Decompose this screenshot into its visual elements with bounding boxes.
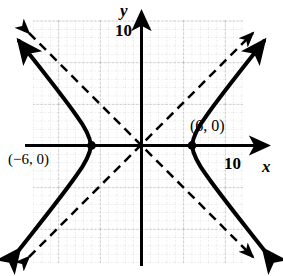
vertex-label-right: (6, 0) — [190, 118, 225, 134]
y-axis-tick-10: 10 — [115, 22, 132, 39]
vertex-label-left: (−6, 0) — [8, 152, 49, 167]
x-axis-label: x — [262, 158, 271, 175]
hyperbola-graph-figure: y x 10 10 (−6, 0) (6, 0) — [0, 0, 283, 276]
vertex-point-right — [188, 141, 197, 150]
vertex-point-left — [87, 141, 96, 150]
graph-canvas — [0, 0, 283, 276]
y-axis-label: y — [120, 2, 128, 19]
x-axis-tick-10: 10 — [224, 155, 241, 172]
